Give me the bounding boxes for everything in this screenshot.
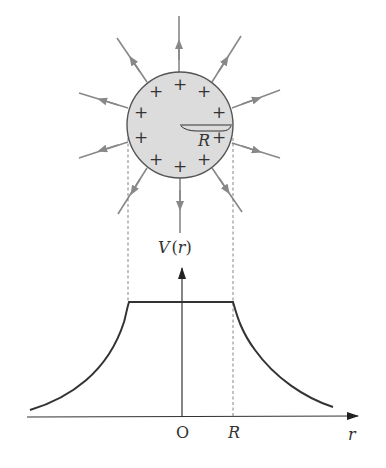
charge-plus: + (197, 81, 211, 101)
field-line-left-upper (79, 93, 128, 108)
y-axis-label: V(r) (158, 238, 192, 257)
charge-plus: + (197, 149, 211, 169)
charge-plus: + (149, 149, 163, 169)
radius-label: R (197, 131, 210, 150)
field-line-right-upper (232, 90, 280, 108)
field-line-lower-right (212, 168, 242, 212)
x-axis-label: r (348, 425, 357, 444)
diagram-canvas: + + + + + + + + + + R V(r) O R r (0, 0, 386, 468)
charge-plus: + (212, 102, 226, 122)
charge-plus: + (134, 127, 148, 147)
graph-axes (27, 268, 358, 417)
graph-labels: V(r) O R r (158, 238, 357, 444)
charge-plus: + (173, 156, 187, 176)
charge-plus: + (173, 74, 187, 94)
tick-label-r-radius: R (227, 423, 240, 442)
field-line-right-lower (232, 143, 280, 158)
charge-plus: + (212, 127, 226, 147)
field-line-lower-left (118, 168, 147, 214)
origin-label: O (176, 423, 189, 442)
x-axis (27, 416, 358, 417)
charge-plus: + (134, 102, 148, 122)
field-line-left-lower (79, 142, 128, 158)
field-line-upper-right (212, 36, 241, 82)
charge-plus: + (149, 81, 163, 101)
field-line-upper-left (117, 38, 147, 82)
